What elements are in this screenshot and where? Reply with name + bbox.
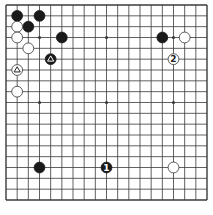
- white-stone: [12, 32, 23, 43]
- white-stone: [168, 162, 179, 173]
- go-board-diagram: 12: [0, 0, 213, 215]
- star-point: [105, 101, 108, 104]
- black-stone: 1: [101, 162, 112, 173]
- move-number-label: 1: [103, 163, 109, 173]
- star-point: [172, 101, 175, 104]
- white-stone: [12, 65, 23, 76]
- black-stone: [34, 10, 45, 21]
- star-point: [38, 101, 41, 104]
- black-stone: [34, 162, 45, 173]
- white-stone: [12, 21, 23, 32]
- white-stone: 2: [168, 54, 179, 65]
- move-number-label: 2: [170, 54, 176, 64]
- white-stone: [12, 86, 23, 97]
- star-point: [172, 36, 175, 39]
- black-stone: [45, 54, 56, 65]
- white-stone: [23, 43, 34, 54]
- white-stone: [179, 32, 190, 43]
- star-point: [38, 36, 41, 39]
- black-stone: [12, 10, 23, 21]
- black-stone: [23, 21, 34, 32]
- black-stone: [56, 32, 67, 43]
- star-point: [105, 36, 108, 39]
- black-stone: [157, 32, 168, 43]
